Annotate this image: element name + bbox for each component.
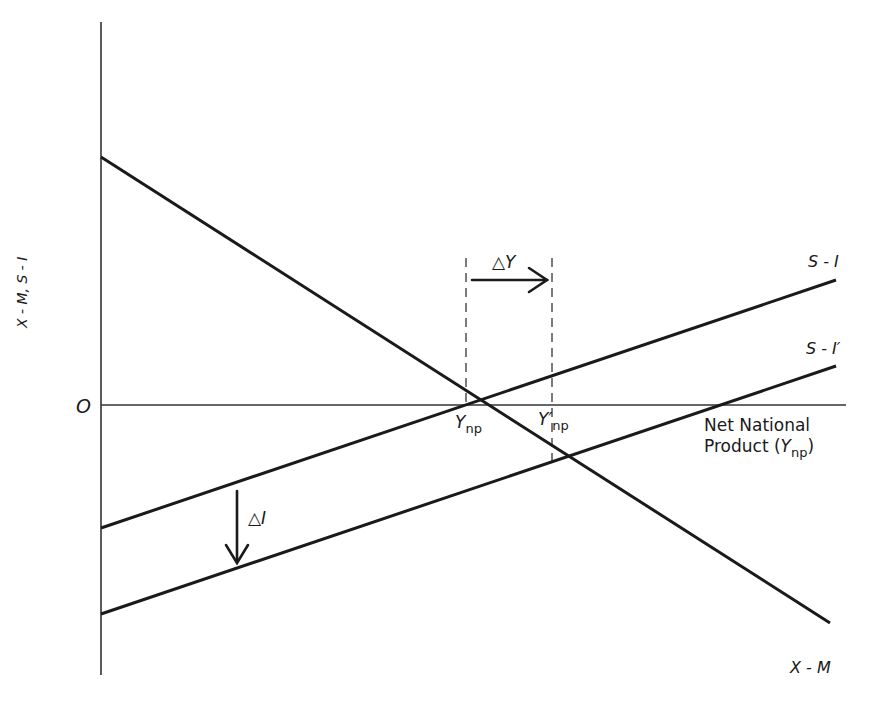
ynp-label: Ynp	[455, 414, 482, 435]
delta-y-label: △Y	[492, 254, 515, 271]
x-axis-label-line1: Net National	[704, 417, 810, 434]
ynp-prime-label: Y′np	[538, 411, 569, 432]
s-minus-i-prime-label: S - I′	[806, 341, 840, 357]
y-axis-label: X - M, S - I	[14, 257, 30, 329]
x-axis-label-line2: Product (Ynp)	[704, 438, 814, 459]
s-minus-i-label: S - I	[808, 254, 839, 270]
diagram-canvas	[0, 0, 870, 702]
delta-i-arrow-icon	[226, 491, 248, 563]
delta-i-label: △I	[248, 510, 266, 527]
x-minus-m-label: X - M	[790, 660, 831, 676]
x-minus-m-line	[101, 157, 830, 623]
origin-label: O	[76, 397, 91, 416]
